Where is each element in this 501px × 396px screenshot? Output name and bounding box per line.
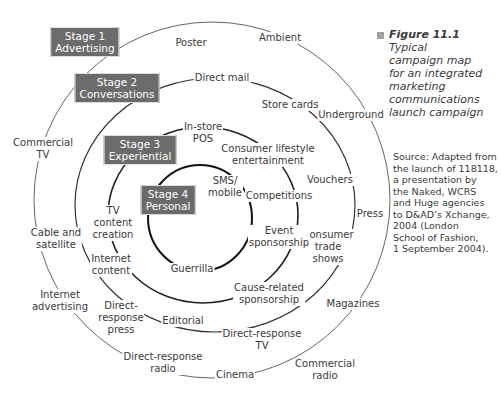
source-line: School of Fashion, [393, 232, 501, 244]
caption-line: for an integrated [389, 67, 501, 80]
label-consumer-lifestyle-entertainment: Consumer lifestyleentertainment [220, 143, 315, 167]
stage3-box: Stage 3 Experiential [104, 135, 177, 165]
label-direct-response-tv: Direct-responseTV [222, 328, 303, 352]
caption-line: marketing [389, 80, 501, 93]
stage2-name: Conversations [80, 88, 155, 100]
label-magazines: Magazines [326, 298, 381, 310]
source-line: the Naked, WCRS [393, 186, 501, 198]
label-in-store-pos: In-storePOS [183, 121, 223, 145]
label-direct-mail: Direct mail [194, 72, 251, 84]
label-poster: Poster [174, 37, 207, 49]
figure-caption: Figure 11.1 Typical campaign map for an … [389, 28, 501, 119]
label-cinema: Cinema [215, 369, 255, 381]
label-underground: Underground [317, 109, 384, 121]
stage4-box: Stage 4 Personal [141, 185, 196, 215]
label-direct-response-radio: Direct-responseradio [123, 351, 204, 375]
caption-line: campaign map [389, 54, 501, 67]
label-guerrilla: Guerrilla [170, 263, 215, 275]
figure-source: Source: Adapted from the launch of 11811… [393, 151, 501, 255]
label-sms-mobile: SMS/mobile [207, 175, 243, 199]
stage4-name: Personal [146, 200, 191, 212]
stage2-number: Stage 2 [80, 76, 155, 88]
stage3-name: Experiential [109, 150, 172, 162]
label-ambient: Ambient [258, 32, 302, 44]
label-store-cards: Store cards [261, 99, 320, 111]
source-line: a presentation by [393, 174, 501, 186]
stage1-name: Advertising [55, 42, 114, 54]
source-line: the launch of 118118, [393, 163, 501, 175]
stage1-number: Stage 1 [55, 30, 114, 42]
source-line: Source: Adapted from [393, 151, 501, 163]
label-competitions: Competitions [245, 190, 313, 202]
stage1-box: Stage 1 Advertising [50, 27, 119, 57]
label-cable-satellite: Cable andsatellite [30, 227, 82, 251]
label-internet-advertising: Internetadvertising [31, 289, 89, 313]
source-line: to D&AD’s Xchange, [393, 209, 501, 221]
label-tv-content-creation: TVcontentcreation [92, 205, 135, 241]
source-line: 2004 (London [393, 220, 501, 232]
caption-square-icon [377, 32, 384, 39]
label-commercial-tv: CommercialTV [12, 137, 74, 161]
source-line: 1 September 2004). [393, 243, 501, 255]
stage2-box: Stage 2 Conversations [75, 73, 160, 103]
label-direct-response-press: Direct-responsepress [97, 300, 144, 336]
label-cause-related-sponsorship: Cause-relatedsponsorship [233, 282, 305, 306]
label-internet-content: Internetcontent [90, 253, 132, 277]
label-vouchers: Vouchers [306, 174, 354, 186]
label-commercial-radio: Commercialradio [294, 358, 356, 382]
label-editorial: Editorial [161, 315, 204, 327]
label-press: Press [356, 208, 384, 220]
figure-number: Figure 11.1 [389, 28, 501, 41]
label-event-sponsorship: Eventsponsorship [248, 225, 310, 249]
caption-line: communications [389, 93, 501, 106]
stage4-number: Stage 4 [146, 188, 191, 200]
caption-line: launch campaign [389, 106, 501, 119]
source-line: and Huge agencies [393, 197, 501, 209]
caption-line: Typical [389, 41, 501, 54]
stage3-number: Stage 3 [109, 138, 172, 150]
